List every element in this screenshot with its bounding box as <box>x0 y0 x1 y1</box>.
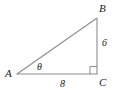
side-length-label-bc: 6 <box>102 38 107 48</box>
angle-label-theta: θ <box>37 62 42 72</box>
right-triangle-figure: A B C 8 6 θ <box>0 0 114 93</box>
triangle-side-ab <box>17 18 97 74</box>
right-angle-marker-icon <box>90 67 97 75</box>
vertex-label-c: C <box>99 77 106 88</box>
vertex-label-a: A <box>5 68 12 79</box>
side-length-label-ac: 8 <box>60 79 65 89</box>
vertex-label-b: B <box>99 3 106 14</box>
triangle-svg <box>0 0 114 93</box>
